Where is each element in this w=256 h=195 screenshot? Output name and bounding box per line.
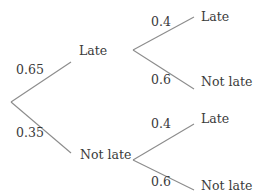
prob-not-late: 0.35 <box>16 127 44 140</box>
prob-late-not-late: 0.6 <box>151 74 171 87</box>
outcome-late-late: Late <box>201 11 229 24</box>
outcome-not-late: Not late <box>80 149 131 162</box>
prob-late: 0.65 <box>16 64 44 77</box>
prob-not-late-late: 0.4 <box>151 118 171 131</box>
prob-late-late: 0.4 <box>151 16 171 29</box>
prob-not-late-not-late: 0.6 <box>151 176 171 189</box>
outcome-not-late-late: Late <box>201 113 229 126</box>
tree-branches <box>0 0 256 195</box>
outcome-late: Late <box>79 45 107 58</box>
outcome-not-late-not-late: Not late <box>201 180 252 193</box>
outcome-late-not-late: Not late <box>201 76 252 89</box>
